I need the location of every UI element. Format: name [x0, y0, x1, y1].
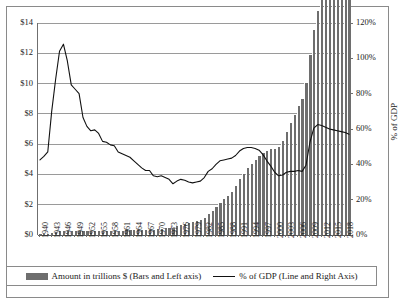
- x-tick-mark: [121, 235, 122, 237]
- x-tick-label: 1955: [101, 222, 109, 238]
- gdp-percent-line: [40, 44, 349, 184]
- x-tick-label: 1979: [195, 222, 203, 238]
- x-tick-label: 2000: [277, 222, 285, 238]
- y-tick-label-left: $8: [7, 109, 33, 118]
- y-tick-mark-right: [350, 164, 353, 165]
- y-tick-label-right: 40%: [356, 159, 390, 168]
- x-tick-mark: [192, 235, 193, 237]
- x-tick-label: 2012: [324, 222, 332, 238]
- legend-item-line: % of GDP (Line and Right Axis): [213, 271, 357, 281]
- x-tick-label: 1982: [206, 222, 214, 238]
- x-tick-label: 1970: [159, 222, 167, 238]
- x-tick-label: 1946: [65, 222, 73, 238]
- y-tick-label-left: $0: [7, 230, 33, 239]
- line-swatch-icon: [213, 276, 235, 277]
- x-tick-label: 1964: [136, 222, 144, 238]
- x-tick-label: 2018: [347, 222, 355, 238]
- x-tick-mark: [344, 235, 345, 237]
- x-tick-label: 1952: [89, 222, 97, 238]
- x-tick-label: 1976: [183, 222, 191, 238]
- x-tick-label: 1961: [124, 222, 132, 238]
- y-tick-label-right: 100%: [356, 53, 390, 62]
- x-tick-mark: [145, 235, 146, 237]
- x-tick-label: 1958: [112, 222, 120, 238]
- x-tick-label: 1967: [148, 222, 156, 238]
- x-tick-mark: [74, 235, 75, 237]
- y-tick-mark-right: [350, 23, 353, 24]
- x-tick-mark: [309, 235, 310, 237]
- chart-legend: Amount in trillions $ (Bars and Left axi…: [6, 266, 377, 286]
- x-tick-label: 2009: [312, 222, 320, 238]
- y-axis-right-title: % of GDP: [388, 103, 398, 141]
- y-tick-label-left: $2: [7, 200, 33, 209]
- x-tick-label: 1940: [42, 222, 50, 238]
- x-axis: 1940194319461949195219551958196119641967…: [37, 235, 350, 269]
- y-tick-label-left: $6: [7, 139, 33, 148]
- y-tick-mark-right: [350, 58, 353, 59]
- x-tick-label: 1943: [54, 222, 62, 238]
- x-tick-label: 1985: [218, 222, 226, 238]
- x-tick-mark: [227, 235, 228, 237]
- y-tick-mark-right: [350, 93, 353, 94]
- y-tick-label-left: $14: [7, 18, 33, 27]
- y-tick-label-right: 20%: [356, 195, 390, 204]
- y-tick-label-right: 120%: [356, 18, 390, 27]
- y-tick-label-right: 0%: [356, 230, 390, 239]
- x-tick-label: 1973: [171, 222, 179, 238]
- x-tick-label: 1994: [253, 222, 261, 238]
- x-tick-label: 1991: [241, 222, 249, 238]
- legend-item-bars: Amount in trillions $ (Bars and Left axi…: [26, 271, 202, 281]
- x-tick-label: 2015: [335, 222, 343, 238]
- x-tick-mark: [180, 235, 181, 237]
- x-tick-label: 1997: [265, 222, 273, 238]
- bar-swatch-icon: [26, 273, 48, 280]
- x-tick-label: 1949: [77, 222, 85, 238]
- x-tick-mark: [215, 235, 216, 237]
- x-tick-mark: [51, 235, 52, 237]
- plot-interior: [37, 23, 350, 235]
- legend-label-line: % of GDP (Line and Right Axis): [239, 271, 357, 281]
- x-tick-mark: [98, 235, 99, 237]
- line-series: [38, 23, 351, 235]
- y-tick-mark-right: [350, 129, 353, 130]
- y-tick-label-left: $12: [7, 48, 33, 57]
- y-tick-mark-right: [350, 199, 353, 200]
- x-tick-label: 2006: [300, 222, 308, 238]
- y-tick-label-right: 60%: [356, 124, 390, 133]
- x-tick-label: 1988: [230, 222, 238, 238]
- y-tick-label-left: $10: [7, 79, 33, 88]
- y-tick-label-left: $4: [7, 169, 33, 178]
- x-tick-mark: [262, 235, 263, 237]
- chart-frame: $0$2$4$6$8$10$12$14 0%20%40%60%80%100%12…: [6, 6, 389, 298]
- legend-label-bars: Amount in trillions $ (Bars and Left axi…: [52, 271, 202, 281]
- x-tick-mark: [168, 235, 169, 237]
- y-tick-label-right: 80%: [356, 89, 390, 98]
- plot-area: $0$2$4$6$8$10$12$14 0%20%40%60%80%100%12…: [7, 7, 390, 269]
- x-tick-mark: [86, 235, 87, 237]
- x-tick-mark: [321, 235, 322, 237]
- x-tick-mark: [274, 235, 275, 237]
- x-tick-mark: [39, 235, 40, 237]
- x-tick-label: 2003: [288, 222, 296, 238]
- x-tick-mark: [133, 235, 134, 237]
